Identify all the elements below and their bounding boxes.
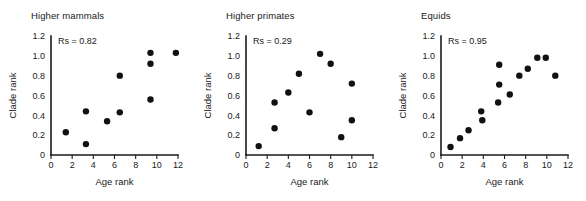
data-point <box>117 109 123 115</box>
data-point <box>525 66 531 72</box>
chart-panel: Higher mammals02468101200.20.40.60.81.01… <box>0 0 195 201</box>
data-point <box>63 129 69 135</box>
data-point <box>496 62 502 68</box>
data-point <box>457 135 463 141</box>
figure-scatter-panels: Higher mammals02468101200.20.40.60.81.01… <box>0 0 586 201</box>
data-point <box>507 91 513 97</box>
data-point <box>516 72 522 78</box>
y-axis-tick-label: 1.0 <box>422 51 435 61</box>
x-axis-tick-label: 8 <box>328 160 333 170</box>
data-point <box>465 127 471 133</box>
x-axis-tick-label: 8 <box>133 160 138 170</box>
y-axis-tick-label: 1.0 <box>32 51 45 61</box>
x-axis-title: Age rank <box>95 176 133 187</box>
x-axis-tick-label: 10 <box>152 160 162 170</box>
chart-panel: Higher primates02468101200.20.40.60.81.0… <box>195 0 390 201</box>
x-axis-tick-label: 4 <box>91 160 96 170</box>
y-axis-tick-label: 0.8 <box>227 71 240 81</box>
data-point <box>479 117 485 123</box>
y-axis-tick-label: 0 <box>40 150 45 160</box>
data-point <box>285 89 291 95</box>
data-point <box>173 50 179 56</box>
data-point <box>147 96 153 102</box>
data-point <box>496 81 502 87</box>
x-axis-tick-label: 0 <box>48 160 53 170</box>
data-point <box>256 143 262 149</box>
data-point <box>117 72 123 78</box>
y-axis-tick-label: 0.4 <box>227 111 240 121</box>
y-axis-tick-label: 1.2 <box>422 31 435 41</box>
y-axis-tick-label: 0.4 <box>32 111 45 121</box>
data-point <box>534 55 540 61</box>
y-axis-tick-label: 0.6 <box>227 91 240 101</box>
data-point <box>327 61 333 67</box>
data-point <box>478 108 484 114</box>
x-axis-title: Age rank <box>290 176 328 187</box>
x-axis-tick-label: 12 <box>563 160 573 170</box>
x-axis-tick-label: 12 <box>368 160 378 170</box>
x-axis-tick-label: 4 <box>481 160 486 170</box>
data-point <box>271 125 277 131</box>
x-axis-tick-label: 10 <box>347 160 357 170</box>
x-axis-tick-label: 10 <box>542 160 552 170</box>
scatter-plot: 02468101200.20.40.60.81.01.2Clade rankAg… <box>195 0 390 201</box>
data-point <box>447 144 453 150</box>
y-axis-title: Clade rank <box>397 72 408 118</box>
x-axis-tick-label: 12 <box>173 160 183 170</box>
y-axis-tick-label: 0.6 <box>422 91 435 101</box>
data-point <box>104 118 110 124</box>
scatter-plot: 02468101200.20.40.60.81.01.2Clade rankAg… <box>390 0 585 201</box>
x-axis-tick-label: 6 <box>307 160 312 170</box>
data-point <box>83 108 89 114</box>
y-axis-tick-label: 0 <box>235 150 240 160</box>
x-axis-tick-label: 0 <box>243 160 248 170</box>
data-point <box>83 141 89 147</box>
x-axis-tick-label: 6 <box>112 160 117 170</box>
x-axis-tick-label: 6 <box>502 160 507 170</box>
y-axis-tick-label: 1.2 <box>227 31 240 41</box>
y-axis-title: Clade rank <box>202 72 213 118</box>
y-axis-tick-label: 0.8 <box>32 71 45 81</box>
x-axis-tick-label: 8 <box>523 160 528 170</box>
y-axis-tick-label: 0.8 <box>422 71 435 81</box>
data-point <box>306 109 312 115</box>
x-axis-tick-label: 4 <box>286 160 291 170</box>
x-axis-tick-label: 2 <box>265 160 270 170</box>
y-axis-tick-label: 0.2 <box>32 130 45 140</box>
y-axis-tick-label: 0.4 <box>422 111 435 121</box>
data-point <box>338 134 344 140</box>
y-axis-tick-label: 0 <box>430 150 435 160</box>
data-point <box>271 99 277 105</box>
data-point <box>147 61 153 67</box>
data-point <box>543 55 549 61</box>
data-point <box>147 50 153 56</box>
correlation-annotation: Rs = 0.82 <box>58 36 97 46</box>
correlation-annotation: Rs = 0.95 <box>448 36 487 46</box>
x-axis-tick-label: 2 <box>460 160 465 170</box>
correlation-annotation: Rs = 0.29 <box>253 36 292 46</box>
data-point <box>296 70 302 76</box>
y-axis-tick-label: 0.2 <box>422 130 435 140</box>
data-point <box>349 117 355 123</box>
y-axis-tick-label: 0.6 <box>32 91 45 101</box>
y-axis-tick-label: 1.2 <box>32 31 45 41</box>
data-point <box>552 72 558 78</box>
chart-panel: Equids02468101200.20.40.60.81.01.2Clade … <box>390 0 585 201</box>
x-axis-tick-label: 0 <box>438 160 443 170</box>
y-axis-tick-label: 0.2 <box>227 130 240 140</box>
data-point <box>495 99 501 105</box>
data-point <box>317 51 323 57</box>
y-axis-tick-label: 1.0 <box>227 51 240 61</box>
y-axis-title: Clade rank <box>7 72 18 118</box>
x-axis-tick-label: 2 <box>70 160 75 170</box>
x-axis-title: Age rank <box>485 176 523 187</box>
data-point <box>349 80 355 86</box>
scatter-plot: 02468101200.20.40.60.81.01.2Clade rankAg… <box>0 0 195 201</box>
